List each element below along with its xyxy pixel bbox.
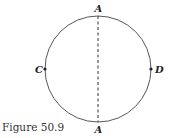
diagram-canvas: A A C D xyxy=(0,0,169,138)
figure-caption: Figure 50.9 xyxy=(2,121,64,133)
label-a-top: A xyxy=(94,3,103,14)
point-c-dot xyxy=(43,67,46,70)
label-d: D xyxy=(154,64,164,75)
label-c: C xyxy=(35,64,43,75)
point-d-dot xyxy=(149,67,152,70)
label-a-bottom: A xyxy=(94,124,103,135)
